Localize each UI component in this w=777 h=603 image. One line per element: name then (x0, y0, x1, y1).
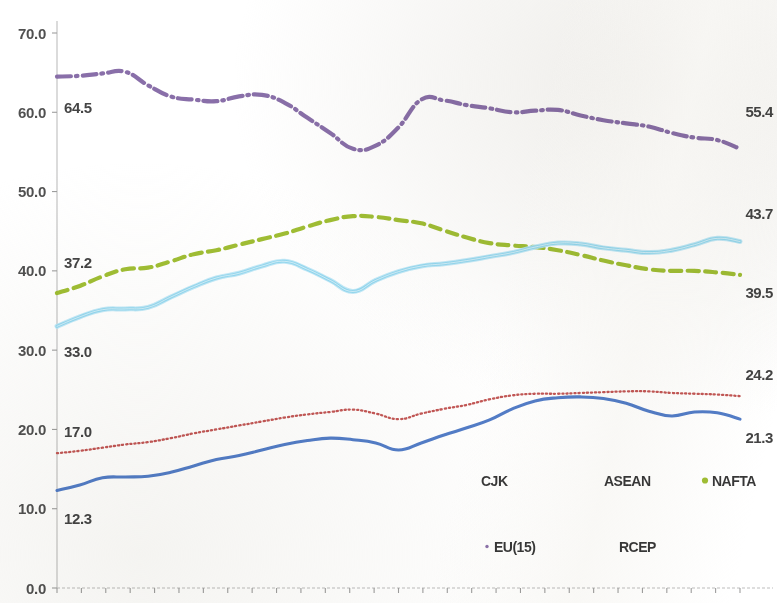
left-value-label: 33.0 (64, 343, 92, 360)
series-eu-15- (57, 71, 740, 150)
chart-legend: CJKASEANNAFTAEU(15)RCEP (432, 473, 756, 555)
legend-label: RCEP (619, 539, 656, 555)
legend-item-rcep[interactable]: RCEP (570, 539, 656, 555)
legend-label: ASEAN (604, 473, 651, 489)
right-value-label: 43.7 (745, 205, 773, 222)
y-axis-tick-label: 20.0 (18, 421, 46, 438)
right-value-label: 55.4 (745, 103, 774, 120)
left-value-label: 64.5 (64, 99, 92, 116)
y-axis-tick-label: 0.0 (26, 580, 46, 597)
y-axis-tick-label: 50.0 (18, 183, 46, 200)
legend-item-cjk[interactable]: CJK (432, 473, 508, 489)
left-value-label: 17.0 (64, 423, 92, 440)
right-value-label: 39.5 (745, 284, 773, 301)
y-axis-tick-label: 70.0 (18, 25, 46, 42)
series-nafta (57, 216, 740, 293)
legend-label: NAFTA (712, 473, 756, 489)
legend-item-eu-15-[interactable]: EU(15) (452, 539, 535, 555)
right-value-label: 24.2 (745, 366, 773, 383)
legend-swatch-dot (485, 545, 488, 548)
y-axis-tick-label: 40.0 (18, 262, 46, 279)
data-series-group (57, 71, 740, 491)
line-chart: 0.010.020.030.040.050.060.070.0 64.537.2… (0, 0, 777, 603)
left-value-label: 37.2 (64, 254, 92, 271)
series-line (57, 216, 740, 293)
y-axis-tick-label: 60.0 (18, 104, 46, 121)
legend-item-nafta[interactable]: NAFTA (672, 473, 756, 489)
series-line (57, 71, 740, 150)
legend-label: EU(15) (494, 539, 535, 555)
left-value-label: 12.3 (64, 510, 92, 527)
y-axis-tick-label: 10.0 (18, 500, 46, 517)
legend-label: CJK (481, 473, 508, 489)
legend-marker-line-dashdot-purple (452, 545, 489, 548)
series-asean (57, 391, 740, 453)
series-rcep (57, 238, 740, 326)
right-value-label: 21.3 (745, 429, 773, 446)
legend-swatch-dot (702, 477, 708, 483)
y-axis-tick-labels: 0.010.020.030.040.050.060.070.0 (18, 25, 46, 597)
series-line-core (57, 238, 740, 326)
y-axis-tick-label: 30.0 (18, 342, 46, 359)
chart-plot-area: 0.010.020.030.040.050.060.070.0 64.537.2… (0, 0, 777, 603)
series-value-labels: 64.537.233.017.012.355.443.739.524.221.3 (64, 99, 774, 527)
legend-item-asean[interactable]: ASEAN (555, 473, 651, 489)
legend-marker-line-dashed-green (672, 477, 708, 483)
series-line (57, 391, 740, 453)
